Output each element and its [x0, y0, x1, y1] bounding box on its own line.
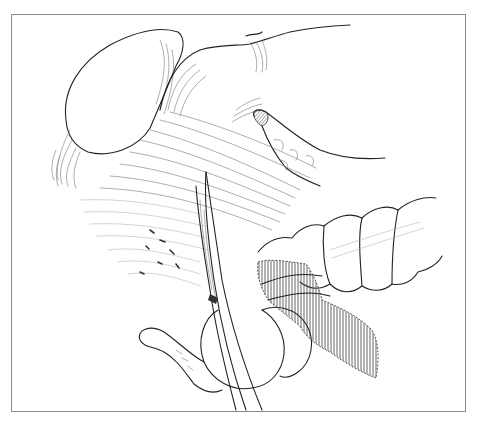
stomach-left-lobe: [52, 30, 183, 188]
mesentery-fibers: [80, 112, 316, 286]
hatched-vessel-segment: [258, 260, 378, 378]
small-bowel-loop: [139, 307, 311, 392]
stomach-body: [160, 25, 350, 122]
surgical-illustration: [0, 0, 477, 424]
surgical-instrument: [196, 172, 262, 410]
